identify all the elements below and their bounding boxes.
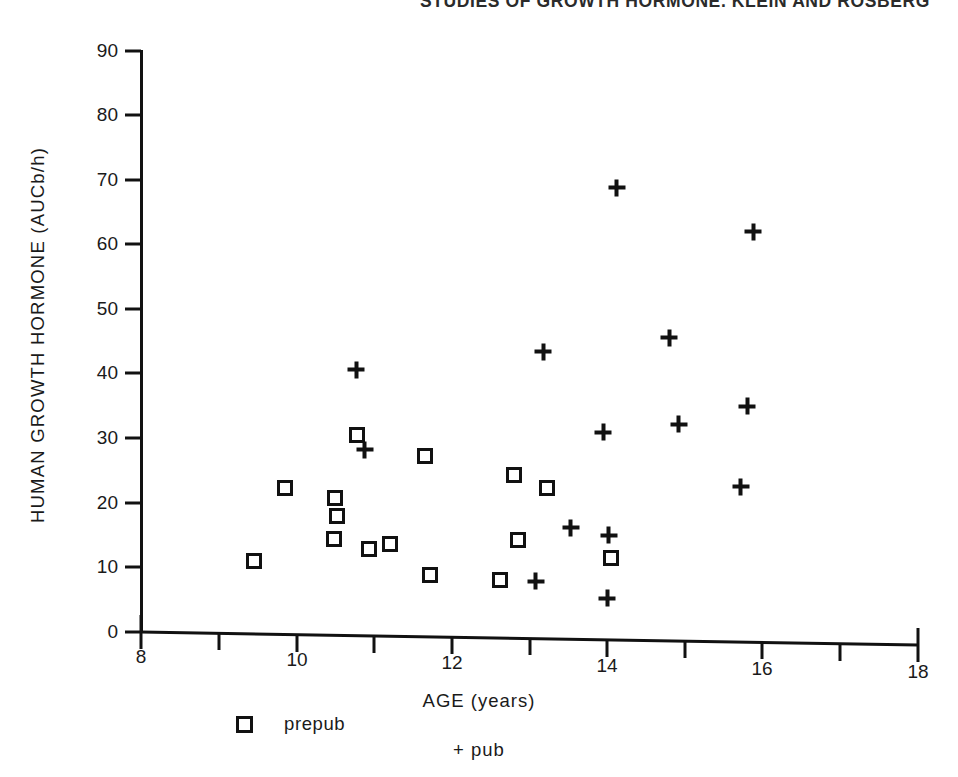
data-point-pub [527,573,544,590]
data-point-prepub [603,550,619,566]
data-point-prepub [246,553,262,569]
data-point-prepub [326,531,342,547]
legend-entry-prepub: prepub [236,713,345,735]
data-point-prepub [417,448,433,464]
data-point-prepub [327,490,343,506]
data-point-pub [356,441,373,458]
y-tick-label: 70 [72,169,118,191]
data-point-prepub [361,541,377,557]
y-tick-labels: 90 80 70 60 50 40 30 20 10 0 [72,50,118,632]
y-tick-label: 20 [72,492,118,514]
data-point-pub [599,590,616,607]
data-point-prepub [506,467,522,483]
y-tick-label: 0 [72,621,118,643]
y-tick-label: 90 [72,40,118,62]
data-point-prepub [329,508,345,524]
data-point-prepub [277,480,293,496]
legend-label-prepub: prepub [284,713,345,735]
y-tick-label: 60 [72,233,118,255]
legend-label-pub: pub [471,739,505,760]
data-point-prepub [382,536,398,552]
figure-scatter-plot: STUDIES OF GROWTH HORMONE. KLEIN AND ROS… [0,0,958,777]
x-axis-label: AGE (years) [0,690,958,712]
data-point-prepub [492,572,508,588]
data-point-prepub [422,567,438,583]
x-tick-label: 10 [267,649,327,671]
x-tick-labels: 8 10 12 14 16 18 [141,646,931,672]
data-point-pub [608,179,625,196]
data-point-pub [348,361,365,378]
x-tick-label: 16 [732,658,792,680]
data-point-pub [670,416,687,433]
x-tick-label: 12 [422,652,482,674]
y-tick-label: 50 [72,298,118,320]
data-point-pub [562,519,579,536]
data-point-prepub [539,480,555,496]
data-point-pub [535,343,552,360]
data-point-pub [739,398,756,415]
y-tick-label: 80 [72,104,118,126]
x-tick-label: 8 [111,646,171,668]
legend-entry-pub: + pub [0,739,958,761]
data-point-pub [732,478,749,495]
y-tick-label: 10 [72,556,118,578]
x-tick-label: 14 [577,655,637,677]
data-point-pub [745,223,762,240]
data-point-pub [661,329,678,346]
data-point-pub [600,527,617,544]
data-point-pub [595,424,612,441]
square-marker-icon [236,716,253,733]
y-axis-label: HUMAN GROWTH HORMONE (AUCb/h) [27,55,49,615]
data-point-prepub [510,532,526,548]
y-tick-label: 30 [72,427,118,449]
plot-area [141,50,918,632]
y-tick-label: 40 [72,362,118,384]
y-axis-ticks [125,51,141,632]
x-tick-label: 18 [888,661,948,683]
plus-marker-icon: + [453,739,465,760]
